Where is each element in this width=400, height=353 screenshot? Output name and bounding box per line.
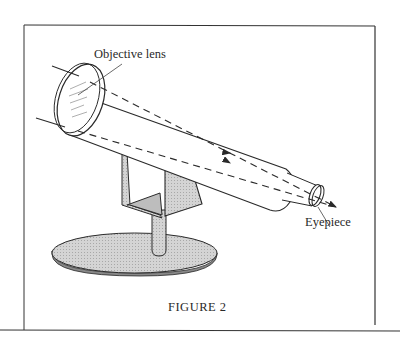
objective-lens-label: Objective lens [94, 47, 166, 62]
eyepiece-label: Eyepiece [305, 215, 351, 230]
figure-caption: FIGURE 2 [168, 300, 227, 315]
